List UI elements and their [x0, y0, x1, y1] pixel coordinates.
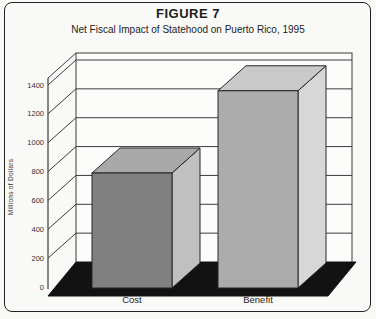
y-tick-label-600: 600 [31, 196, 44, 205]
category-label-benefit: Benefit [243, 294, 273, 305]
y-tick-label-0: 0 [40, 283, 44, 292]
left-wall-top-edge [48, 53, 76, 78]
gridline-leftwall-600 [48, 175, 76, 200]
gridline-leftwall-1400 [48, 60, 76, 85]
bar-benefit-side [298, 66, 326, 288]
gridline-leftwall-1000 [48, 118, 76, 143]
bar-chart-3d: 0200400600800100012001400Millions of Dol… [0, 0, 376, 319]
gridline-leftwall-400 [48, 204, 76, 229]
gridline-leftwall-800 [48, 147, 76, 172]
gridline-leftwall-200 [48, 233, 76, 258]
figure-page: FIGURE 7 Net Fiscal Impact of Statehood … [0, 0, 376, 319]
y-tick-label-1400: 1400 [27, 81, 44, 90]
y-tick-label-200: 200 [31, 254, 44, 263]
y-axis-title: Millions of Dollars [7, 158, 14, 215]
y-tick-label-800: 800 [31, 167, 44, 176]
bar-cost-front [92, 173, 172, 288]
y-tick-label-1200: 1200 [27, 109, 44, 118]
category-label-cost: Cost [122, 294, 142, 305]
gridline-leftwall-1200 [48, 89, 76, 114]
bar-benefit-front [218, 91, 298, 288]
y-tick-label-1000: 1000 [27, 138, 44, 147]
y-tick-label-400: 400 [31, 225, 44, 234]
